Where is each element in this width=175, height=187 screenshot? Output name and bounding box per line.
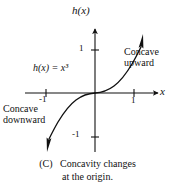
- concave-upward-line-1: Concave: [124, 47, 159, 58]
- caption-label: (C): [39, 158, 52, 169]
- concave-downward-annotation: Concave downward: [3, 104, 45, 125]
- caption-text-line-1: Concavity changes: [60, 158, 136, 169]
- y-axis-label: h(x): [72, 5, 90, 17]
- function-equation-label: h(x) = x³: [33, 63, 68, 74]
- curve-lower-arrowhead: [47, 138, 52, 152]
- concave-upward-annotation: Concave upward: [124, 47, 159, 68]
- concave-upward-line-2: upward: [124, 58, 159, 69]
- concave-downward-line-1: Concave: [3, 104, 45, 115]
- figure-caption: (C) Concavity changes at the origin.: [0, 158, 175, 183]
- x-axis-label: x: [160, 86, 165, 98]
- y-tick-label-negative-one: -1: [72, 130, 80, 139]
- caption-text-line-2: at the origin.: [0, 171, 175, 184]
- caption-first-line: (C) Concavity changes: [0, 158, 175, 171]
- concavity-figure: h(x) x -1 1 1 -1 h(x) = x³ Concave upwar…: [0, 0, 175, 187]
- x-tick-label-one: 1: [131, 96, 136, 105]
- y-tick-label-one: 1: [79, 44, 84, 53]
- concave-downward-line-2: downward: [3, 115, 45, 126]
